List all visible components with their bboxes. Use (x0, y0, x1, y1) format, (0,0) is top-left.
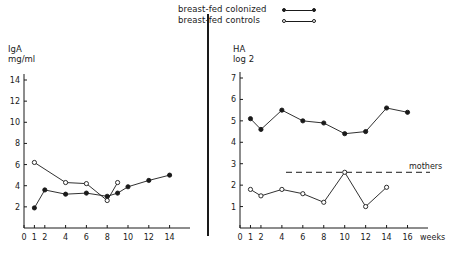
legend-marker-open-circle-icon (282, 16, 316, 26)
left-datapoint-controls (116, 180, 120, 184)
right-datapoint-colonized (322, 121, 326, 125)
legend-label-controls: breast-fed controls (178, 15, 282, 26)
right-datapoint-colonized (248, 117, 252, 121)
right-datapoint-controls (301, 192, 305, 196)
left-y-axis-title: IgA mg/ml (8, 44, 35, 64)
right-x-tick-label: 10 (340, 233, 350, 242)
left-y-tick-label: 10 (10, 118, 20, 127)
right-x-tick-label: 12 (361, 233, 371, 242)
left-y-tick-label: 2 (15, 203, 20, 212)
right-x-tick-label: 0 (237, 233, 242, 242)
right-datapoint-controls (343, 170, 347, 174)
left-datapoint-controls (32, 160, 36, 164)
right-y-tick-label: 7 (231, 74, 236, 83)
right-y-tick-label: 6 (231, 95, 236, 104)
right-x-tick-label: 1 (248, 233, 253, 242)
left-datapoint-controls (64, 180, 68, 184)
left-y-tick-label: 8 (15, 139, 20, 148)
left-datapoint-controls (105, 198, 109, 202)
right-x-tick-label: 16 (402, 233, 412, 242)
left-datapoint-colonized (126, 185, 130, 189)
left-x-tick-label: 6 (84, 233, 89, 242)
legend: breast-fed colonized breast-fed controls (178, 4, 328, 26)
left-datapoint-colonized (43, 188, 47, 192)
right-datapoint-colonized (384, 106, 388, 110)
left-x-tick-label: 0 (21, 233, 26, 242)
left-y-tick-label: 4 (15, 182, 20, 191)
right-datapoint-controls (280, 187, 284, 191)
left-datapoint-colonized (32, 206, 36, 210)
left-datapoint-colonized (64, 192, 68, 196)
left-x-tick-label: 12 (144, 233, 154, 242)
right-series-line-controls (250, 172, 386, 206)
left-x-tick-label: 2 (42, 233, 47, 242)
right-x-tick-label: 8 (321, 233, 326, 242)
right-y-tick-label: 1 (231, 203, 236, 212)
right-datapoint-controls (322, 200, 326, 204)
right-datapoint-colonized (405, 110, 409, 114)
left-x-tick-label: 10 (123, 233, 133, 242)
legend-label-colonized: breast-fed colonized (178, 4, 282, 15)
right-datapoint-colonized (364, 129, 368, 133)
legend-item-colonized: breast-fed colonized (178, 4, 328, 15)
left-x-tick-label: 1 (32, 233, 37, 242)
mothers-line-label: mothers (409, 162, 442, 171)
left-x-tick-label: 14 (165, 233, 175, 242)
right-datapoint-colonized (301, 119, 305, 123)
right-y-tick-label: 5 (231, 117, 236, 126)
left-x-tick-label: 4 (63, 233, 68, 242)
right-datapoint-colonized (259, 127, 263, 131)
right-x-tick-label: 2 (258, 233, 263, 242)
left-y-tick-label: 6 (15, 161, 20, 170)
right-x-tick-label: 14 (381, 233, 391, 242)
legend-marker-filled-circle-icon (282, 5, 316, 15)
left-datapoint-colonized (116, 191, 120, 195)
left-datapoint-colonized (168, 173, 172, 177)
right-y-tick-label: 4 (231, 138, 236, 147)
right-y-axis-title: HA log 2 (233, 44, 254, 64)
left-y-tick-label: 12 (10, 97, 20, 106)
left-datapoint-controls (84, 182, 88, 186)
right-x-tick-label: 4 (279, 233, 284, 242)
right-datapoint-controls (364, 204, 368, 208)
plot-area: 2468101214012468101214123456701246810121… (0, 0, 453, 254)
left-series-line-controls (34, 162, 117, 200)
right-datapoint-colonized (280, 108, 284, 112)
right-series-line-colonized (250, 108, 407, 134)
right-y-tick-label: 2 (231, 181, 236, 190)
right-datapoint-controls (248, 187, 252, 191)
left-datapoint-colonized (84, 191, 88, 195)
left-datapoint-colonized (147, 178, 151, 182)
legend-item-controls: breast-fed controls (178, 15, 328, 26)
right-y-tick-label: 3 (231, 160, 236, 169)
right-x-tick-label: 6 (300, 233, 305, 242)
right-datapoint-controls (384, 185, 388, 189)
x-axis-label-weeks: weeks (420, 233, 445, 242)
left-x-tick-label: 8 (105, 233, 110, 242)
right-datapoint-colonized (343, 132, 347, 136)
left-y-tick-label: 14 (10, 76, 20, 85)
right-datapoint-controls (259, 194, 263, 198)
figure-panel-container: breast-fed colonized breast-fed controls… (0, 0, 453, 254)
